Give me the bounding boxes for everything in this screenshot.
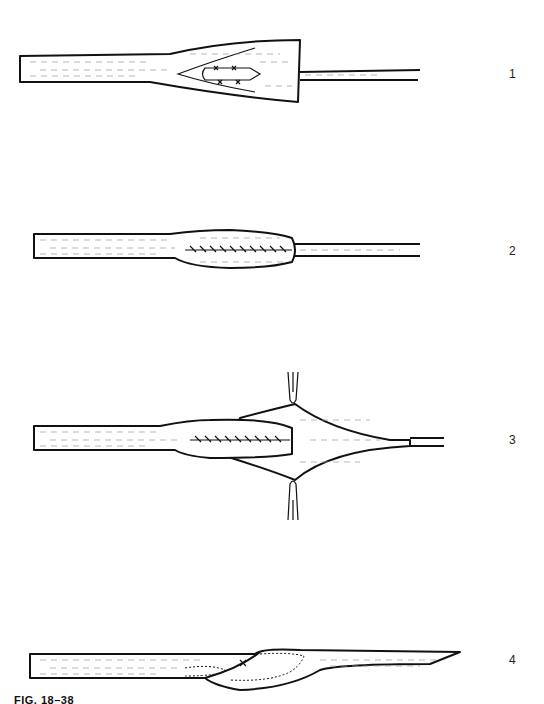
figure-diagram: 1 2 3 4 FIG. 18–38 [0,0,544,704]
panel-3-label: 3 [509,433,516,447]
figure-caption: FIG. 18–38 [14,694,74,704]
panel-2-drawing [34,230,420,268]
panel-2-label: 2 [509,244,516,258]
panel-3-drawing [34,372,444,520]
panel-4-drawing [30,650,460,691]
panel-1-drawing [20,40,420,102]
panel-4-label: 4 [509,653,516,667]
tendon-repair-drawing [0,0,544,704]
panel-1-label: 1 [509,67,516,81]
